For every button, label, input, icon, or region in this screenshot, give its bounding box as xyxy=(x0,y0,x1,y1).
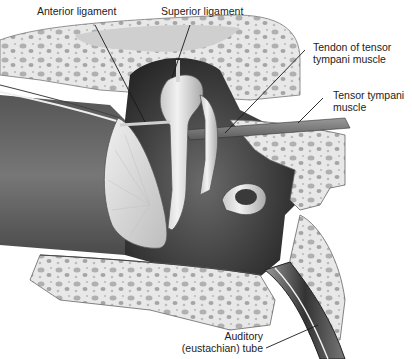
label-line: tympani muscle xyxy=(313,53,391,65)
label-line: muscle xyxy=(333,101,404,113)
label-tendon-of-tensor-tympani: Tendon of tensor tympani muscle xyxy=(313,41,391,65)
label-line: Auditory xyxy=(178,330,263,342)
label-auditory-tube: Auditory (eustachian) tube xyxy=(178,330,263,354)
label-anterior-ligament: Anterior ligament xyxy=(37,5,116,17)
label-superior-ligament: Superior ligament xyxy=(161,5,243,17)
label-line: Tensor tympani xyxy=(333,89,404,101)
label-line: (eustachian) tube xyxy=(178,342,263,354)
label-line: Tendon of tensor xyxy=(313,41,391,53)
middle-ear-diagram: Anterior ligament Superior ligament Tend… xyxy=(0,0,412,359)
label-tensor-tympani-muscle: Tensor tympani muscle xyxy=(333,89,404,113)
